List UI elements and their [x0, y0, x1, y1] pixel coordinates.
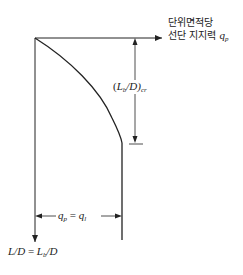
qp-symbol: qp	[219, 29, 228, 41]
axis-title-line1: 단위면적당	[168, 16, 228, 29]
dim-arrow-right-icon	[115, 214, 122, 219]
axis-title-x: 단위면적당 선단 지지력 qp	[168, 16, 228, 46]
dim-arrow-up-icon	[133, 38, 138, 45]
dim-arrow-down-icon	[133, 136, 138, 143]
dim-arrow-left-icon	[35, 214, 42, 219]
critical-depth-label: (Lb/D)cr	[112, 80, 148, 94]
axis-title-y: L/D = Lb/D	[8, 245, 57, 259]
axis-title-line2: 선단 지지력 qp	[168, 29, 228, 46]
limit-resistance-label: qp = ql	[58, 209, 86, 223]
